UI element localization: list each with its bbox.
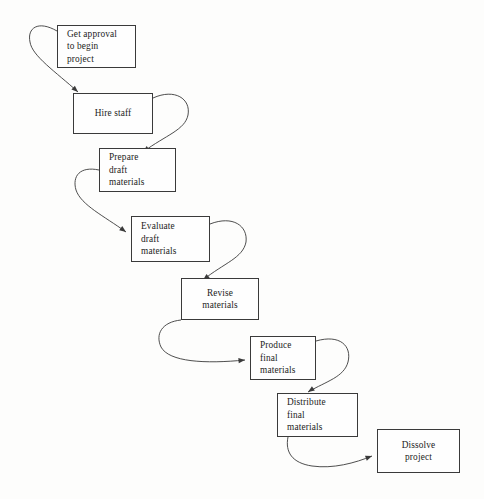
flowchart-node-label: Evaluate draft materials xyxy=(141,220,200,257)
flowchart-edge-revise-to-produce xyxy=(159,320,245,362)
flowchart-node-evaluate-draft-materials: Evaluate draft materials xyxy=(131,216,210,262)
flowchart-node-label: Revise materials xyxy=(202,287,237,312)
flowchart-node-produce-final-materials: Produce final materials xyxy=(250,336,316,380)
flowchart-node-label: Prepare draft materials xyxy=(109,151,166,188)
flowchart-node-label: Distribute final materials xyxy=(287,396,348,433)
flowchart-node-prepare-draft-materials: Prepare draft materials xyxy=(99,148,176,192)
flowchart-node-label: Produce final materials xyxy=(260,339,306,376)
flowchart-node-label: Get approval to begin project xyxy=(67,28,126,65)
flowchart-edge-revise-to-produce-arrowhead xyxy=(238,358,245,363)
flowchart-node-dissolve-project: Dissolve project xyxy=(377,429,460,473)
flowchart-edge-approval-to-hire-arrowhead xyxy=(71,86,78,92)
flowchart-node-hire-staff: Hire staff xyxy=(73,93,153,134)
flowchart-node-label: Hire staff xyxy=(95,107,132,119)
flowchart-node-label: Dissolve project xyxy=(402,439,436,464)
flowchart-node-distribute-final-materials: Distribute final materials xyxy=(277,393,358,437)
flowchart-edge-produce-to-distribute-arrowhead xyxy=(308,386,315,392)
flowchart-canvas: Get approval to begin projectHire staffP… xyxy=(0,0,484,499)
flowchart-node-get-approval: Get approval to begin project xyxy=(57,25,136,68)
flowchart-edges-layer xyxy=(0,0,484,499)
flowchart-node-revise-materials: Revise materials xyxy=(181,278,259,320)
flowchart-edge-prepare-to-evaluate-arrowhead xyxy=(119,226,126,232)
flowchart-edge-distribute-to-dissolve-arrowhead xyxy=(365,456,372,461)
flowchart-edge-distribute-to-dissolve xyxy=(287,437,372,467)
